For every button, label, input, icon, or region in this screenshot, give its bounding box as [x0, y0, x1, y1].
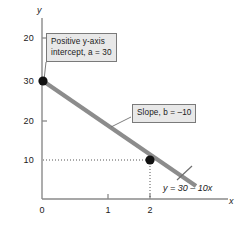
annotation-intercept: Positive y-axis intercept, a = 30	[46, 33, 117, 62]
equation-label: y = 30 – 10x	[163, 183, 212, 193]
y-tick-label-2: 20	[14, 116, 34, 126]
leader-line-slope	[111, 117, 131, 127]
y-tick-label-3: 10	[14, 155, 34, 165]
data-point-intercept	[38, 76, 47, 85]
figure-container: 20 30 20 10 0 1 2 y x Positive y-axis in…	[0, 0, 238, 229]
data-point-second	[145, 155, 154, 164]
x-tick-label-2: 2	[143, 205, 157, 215]
plot-canvas	[0, 0, 238, 229]
x-tick-label-1: 1	[101, 205, 115, 215]
annotation-slope: Slope, b = –10	[132, 104, 196, 123]
y-tick-label-1: 30	[14, 76, 34, 86]
data-line	[43, 81, 196, 186]
x-tick-label-0: 0	[35, 205, 49, 215]
x-axis-label: x	[229, 196, 234, 206]
y-axis-label: y	[37, 5, 42, 15]
y-tick-label-0: 20	[14, 33, 34, 43]
